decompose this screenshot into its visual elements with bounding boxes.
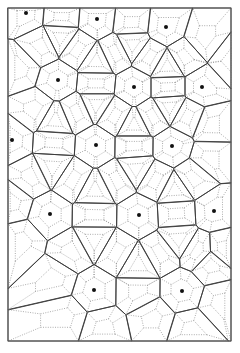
radial-dotted-line bbox=[207, 61, 221, 63]
radial-dotted-line bbox=[105, 26, 113, 33]
radial-dotted-line bbox=[148, 203, 157, 209]
radial-dotted-line bbox=[167, 37, 168, 47]
secondary-cell bbox=[45, 227, 94, 274]
radial-dotted-line bbox=[74, 189, 75, 202]
radial-dotted-line bbox=[116, 297, 129, 306]
radial-dotted-line bbox=[36, 119, 37, 131]
radial-dotted-line bbox=[126, 315, 142, 317]
radial-dotted-line bbox=[132, 97, 133, 107]
site-dot bbox=[180, 289, 184, 293]
radial-dotted-line bbox=[22, 147, 32, 154]
inner-dotted-polygon bbox=[196, 26, 216, 49]
radial-dotted-line bbox=[186, 97, 187, 108]
radial-dotted-line bbox=[205, 273, 209, 286]
radial-dotted-line bbox=[156, 190, 157, 203]
radial-dotted-line bbox=[76, 135, 86, 140]
secondary-cell bbox=[117, 156, 155, 190]
radial-dotted-line bbox=[175, 77, 185, 83]
radial-dotted-line bbox=[32, 153, 33, 167]
inner-dotted-polygon bbox=[85, 209, 104, 220]
inner-dotted-polygon bbox=[203, 259, 220, 274]
radial-dotted-line bbox=[43, 20, 54, 25]
radial-dotted-line bbox=[140, 8, 151, 17]
radial-dotted-line bbox=[148, 223, 157, 231]
radial-dotted-line bbox=[19, 209, 28, 219]
site-dot bbox=[48, 212, 52, 216]
radial-dotted-line bbox=[187, 272, 192, 282]
radial-dotted-line bbox=[203, 233, 210, 244]
inner-dotted-polygon bbox=[194, 75, 217, 97]
radial-dotted-line bbox=[73, 220, 86, 227]
radial-dotted-line bbox=[108, 306, 115, 320]
radial-dotted-line bbox=[31, 246, 45, 253]
secondary-cell bbox=[150, 48, 184, 78]
inner-dotted-polygon bbox=[107, 107, 122, 125]
inner-dotted-polygon bbox=[128, 163, 144, 178]
radial-dotted-line bbox=[34, 199, 42, 207]
radial-dotted-line bbox=[116, 34, 117, 45]
inner-dotted-structure bbox=[8, 8, 231, 341]
radial-dotted-line bbox=[76, 91, 77, 103]
secondary-cell bbox=[76, 73, 116, 94]
radial-dotted-line bbox=[219, 133, 231, 142]
radial-dotted-line bbox=[8, 283, 36, 289]
radial-dotted-line bbox=[223, 183, 232, 197]
radial-dotted-line bbox=[138, 27, 147, 33]
inner-dotted-polygon bbox=[88, 53, 103, 67]
secondary-cell bbox=[136, 159, 173, 202]
radial-dotted-line bbox=[132, 328, 144, 341]
inner-dotted-polygon bbox=[141, 309, 162, 328]
radial-dotted-line bbox=[183, 142, 194, 144]
inner-dotted-polygon bbox=[15, 232, 32, 261]
radial-dotted-line bbox=[175, 302, 178, 313]
radial-dotted-line bbox=[8, 178, 21, 179]
secondary-cell bbox=[189, 142, 231, 184]
radial-dotted-line bbox=[116, 75, 125, 81]
secondary-cell bbox=[77, 41, 113, 74]
secondary-cell bbox=[113, 8, 151, 34]
radial-dotted-line bbox=[217, 88, 232, 89]
radial-dotted-line bbox=[72, 204, 85, 210]
primary-cell bbox=[153, 126, 194, 168]
radial-dotted-line bbox=[94, 113, 95, 125]
radial-dotted-line bbox=[139, 33, 148, 40]
site-dot bbox=[132, 85, 136, 89]
inner-dotted-polygon bbox=[70, 103, 85, 122]
inner-dotted-polygon bbox=[10, 193, 21, 212]
radial-dotted-line bbox=[131, 66, 132, 76]
inner-dotted-polygon bbox=[64, 169, 82, 190]
inner-dotted-polygon bbox=[129, 255, 148, 271]
radial-dotted-line bbox=[8, 310, 41, 314]
inner-dotted-polygon bbox=[181, 321, 207, 335]
radial-dotted-line bbox=[170, 126, 171, 136]
radial-dotted-line bbox=[185, 77, 194, 82]
radial-dotted-line bbox=[74, 156, 75, 170]
inner-dotted-polygon bbox=[70, 41, 86, 59]
radial-dotted-line bbox=[142, 150, 153, 156]
secondary-cell bbox=[98, 158, 137, 205]
secondary-cell bbox=[210, 228, 231, 269]
secondary-cell bbox=[8, 295, 87, 341]
radial-dotted-line bbox=[61, 204, 72, 209]
radial-dotted-line bbox=[163, 168, 173, 175]
inner-dotted-polygon bbox=[177, 48, 194, 65]
radial-dotted-line bbox=[68, 295, 72, 308]
radial-dotted-line bbox=[49, 52, 59, 59]
inner-dotted-polygon bbox=[109, 171, 126, 191]
inner-dotted-polygon bbox=[168, 208, 185, 219]
radial-dotted-line bbox=[115, 334, 131, 341]
radial-dotted-line bbox=[63, 285, 72, 295]
site-dot bbox=[92, 288, 96, 292]
inner-dotted-polygon bbox=[53, 32, 68, 46]
inner-dotted-polygon bbox=[167, 182, 183, 196]
radial-dotted-line bbox=[59, 91, 60, 102]
radial-dotted-line bbox=[106, 137, 116, 141]
secondary-cell bbox=[98, 32, 132, 74]
secondary-cell bbox=[37, 101, 74, 134]
radial-dotted-line bbox=[78, 94, 80, 105]
inner-dotted-polygon bbox=[126, 40, 140, 53]
radial-dotted-line bbox=[194, 308, 198, 321]
radial-dotted-line bbox=[117, 158, 118, 170]
radial-dotted-line bbox=[32, 186, 34, 199]
radial-dotted-line bbox=[94, 125, 95, 135]
